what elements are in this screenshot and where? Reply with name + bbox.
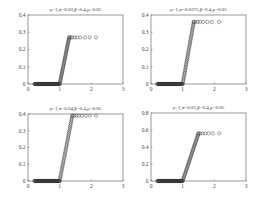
x-tick-label: 1 xyxy=(58,183,61,189)
x-tick-label: 1 xyxy=(58,86,61,92)
x-tick-label: 3 xyxy=(122,183,125,189)
y-tick-label: 0 xyxy=(23,178,26,184)
subplot-1: ρ=1,σ=0.03,β=0.4,μ=0.05012300.10.20.30.4 xyxy=(19,7,125,92)
y-tick-label: 0.4 xyxy=(142,12,149,18)
y-tick-label: 0.1 xyxy=(142,64,149,70)
x-tick-label: 0 xyxy=(150,183,153,189)
x-tick-label: 0 xyxy=(150,86,153,92)
y-tick-label: 0.3 xyxy=(19,128,26,134)
subplot-title: ρ=1,σ=0.03,β=0.4,μ=0.05 xyxy=(50,7,102,13)
figure-canvas: ρ=1,σ=0.03,β=0.4,μ=0.05012300.10.20.30.4… xyxy=(0,0,263,201)
x-tick-label: 1 xyxy=(181,183,184,189)
x-tick-label: 2 xyxy=(90,86,93,92)
y-tick-label: 0.1 xyxy=(19,64,26,70)
x-tick-label: 3 xyxy=(245,183,248,189)
subplot-title: ρ=1,σ=0.04,β=0.4,μ=0.05 xyxy=(50,106,102,112)
y-tick-label: 0.3 xyxy=(19,29,26,35)
x-tick-label: 2 xyxy=(213,183,216,189)
subplot-4: ρ=1,σ=0.05,β=0.4,μ=0.05012300.20.40.60.8 xyxy=(142,105,248,189)
data-markers xyxy=(33,36,98,86)
axes-frame xyxy=(28,114,123,181)
y-tick-label: 0.2 xyxy=(142,161,149,167)
x-tick-label: 3 xyxy=(122,86,125,92)
x-tick-label: 0 xyxy=(27,183,30,189)
y-tick-label: 0 xyxy=(146,178,149,184)
data-markers xyxy=(156,132,221,183)
y-tick-label: 0.2 xyxy=(19,144,26,150)
axes-frame xyxy=(151,113,246,181)
y-tick-label: 0.4 xyxy=(19,12,26,18)
y-tick-label: 0.3 xyxy=(142,29,149,35)
y-tick-label: 0.1 xyxy=(19,161,26,167)
y-tick-label: 0.2 xyxy=(19,46,26,52)
subplot-3: ρ=1,σ=0.04,β=0.4,μ=0.05012300.10.20.30.4 xyxy=(19,106,125,189)
data-markers xyxy=(156,20,221,85)
y-tick-label: 0 xyxy=(146,81,149,87)
y-tick-label: 0.6 xyxy=(142,127,149,133)
axes-frame xyxy=(28,15,123,84)
x-tick-label: 2 xyxy=(90,183,93,189)
y-tick-label: 0.2 xyxy=(142,46,149,52)
axes-frame xyxy=(151,15,246,84)
x-tick-label: 1 xyxy=(181,86,184,92)
subplot-title: ρ=1,σ=0.0375,β=0.4,μ=0.05 xyxy=(170,7,227,13)
y-tick-label: 0.4 xyxy=(19,111,26,117)
subplot-2: ρ=1,σ=0.0375,β=0.4,μ=0.05012300.10.20.30… xyxy=(142,7,248,92)
y-tick-label: 0.8 xyxy=(142,110,149,116)
x-tick-label: 0 xyxy=(27,86,30,92)
x-tick-label: 3 xyxy=(245,86,248,92)
y-tick-label: 0.4 xyxy=(142,144,149,150)
data-markers xyxy=(33,114,98,183)
subplot-title: ρ=1,σ=0.05,β=0.4,μ=0.05 xyxy=(173,105,225,111)
y-tick-label: 0 xyxy=(23,81,26,87)
x-tick-label: 2 xyxy=(213,86,216,92)
